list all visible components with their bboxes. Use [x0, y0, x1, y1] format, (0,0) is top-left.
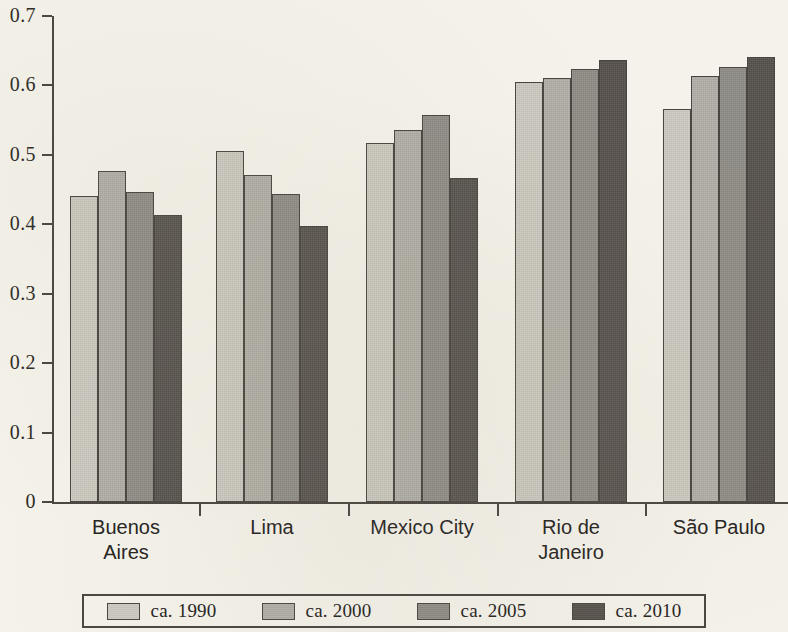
y-axis-tick [42, 15, 52, 17]
legend-swatch-ca-2005 [417, 603, 450, 620]
y-axis-tick-label: 0.1 [0, 421, 36, 444]
legend-swatch-ca-2010 [572, 603, 605, 620]
x-axis-group-label-line: Aires [44, 540, 208, 565]
legend-label: ca. 1990 [151, 600, 217, 622]
bar [599, 60, 627, 502]
y-axis-tick-label: 0.6 [0, 73, 36, 96]
x-axis-group-label-line: Rio de [489, 515, 653, 540]
x-axis-group-label-line: Buenos [44, 515, 208, 540]
y-axis-tick [42, 362, 52, 364]
bar [450, 178, 478, 502]
y-axis-tick-label: 0.5 [0, 143, 36, 166]
bar [272, 194, 300, 502]
bar [244, 175, 272, 502]
x-axis-group-label: BuenosAires [44, 515, 208, 565]
bar [300, 226, 328, 502]
y-axis-tick [42, 223, 52, 225]
x-axis-line [52, 502, 788, 504]
y-axis-tick [42, 432, 52, 434]
y-axis-tick-label: 0.2 [0, 351, 36, 374]
bar [126, 192, 154, 502]
bar [154, 215, 182, 502]
bar [98, 171, 126, 502]
y-axis-tick-label: 0.7 [0, 4, 36, 27]
x-axis-group-label: Mexico City [340, 515, 504, 540]
legend-item[interactable]: ca. 2005 [417, 600, 527, 622]
y-axis-tick [42, 154, 52, 156]
bar [422, 115, 450, 502]
legend-swatch-ca-1990 [107, 603, 140, 620]
y-axis-tick-label: 0 [0, 490, 36, 513]
x-axis-group-label: Lima [190, 515, 354, 540]
x-axis-group-label-line: Janeiro [489, 540, 653, 565]
y-axis-tick-label: 0.4 [0, 212, 36, 235]
legend-item[interactable]: ca. 2000 [262, 600, 372, 622]
bar-chart: 00.10.20.30.40.50.60.7 BuenosAiresLimaMe… [0, 0, 788, 632]
x-axis-group-label-line: Lima [190, 515, 354, 540]
chart-legend: ca. 1990ca. 2000ca. 2005ca. 2010 [82, 594, 706, 628]
legend-swatch-ca-2000 [262, 603, 295, 620]
x-axis-group-label: São Paulo [637, 515, 788, 540]
bar [366, 143, 394, 502]
bar [691, 76, 719, 502]
bar [394, 130, 422, 502]
bar [216, 151, 244, 502]
x-axis-group-label-line: Mexico City [340, 515, 504, 540]
bar [747, 57, 775, 502]
legend-item[interactable]: ca. 2010 [572, 600, 682, 622]
bar [70, 196, 98, 502]
legend-label: ca. 2000 [306, 600, 372, 622]
bar [543, 78, 571, 502]
x-axis-group-label: Rio deJaneiro [489, 515, 653, 565]
bar [663, 109, 691, 502]
y-axis-tick [42, 293, 52, 295]
y-axis-tick [42, 501, 52, 503]
x-axis-group-label-line: São Paulo [637, 515, 788, 540]
bar [515, 82, 543, 502]
legend-label: ca. 2005 [461, 600, 527, 622]
y-axis-tick [42, 84, 52, 86]
legend-label: ca. 2010 [616, 600, 682, 622]
bar [719, 67, 747, 502]
y-axis-tick-label: 0.3 [0, 282, 36, 305]
legend-item[interactable]: ca. 1990 [107, 600, 217, 622]
y-axis-line [52, 16, 54, 504]
bar [571, 69, 599, 502]
